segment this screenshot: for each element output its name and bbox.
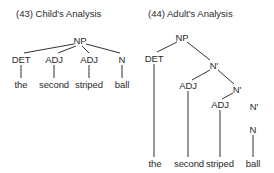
tree-44-node-adj1: ADJ	[179, 80, 197, 91]
tree-43-word-the: the	[15, 79, 28, 90]
edge-np-nbar1	[187, 42, 210, 60]
tree-44-node-np: NP	[176, 32, 189, 43]
tree-43-node-n: N	[119, 54, 126, 65]
tree-44-title: (44) Adult's Analysis	[148, 8, 233, 19]
tree-43-word-ball: ball	[115, 79, 129, 90]
tree-44-node-n: N	[250, 124, 257, 135]
tree-44-node-det: DET	[145, 53, 164, 64]
edge-np-det-44	[157, 42, 177, 52]
edge-np-adj1	[58, 46, 76, 53]
edge-np-det	[24, 44, 74, 53]
tree-43-word-second: second	[39, 79, 69, 90]
edge-np-n	[86, 44, 120, 53]
tree-43-node-det: DET	[12, 54, 31, 65]
tree-43-word-striped: striped	[75, 79, 103, 90]
tree-44-word-second: second	[174, 158, 204, 169]
tree-43-node-np: NP	[74, 35, 87, 46]
tree-44-word-ball: ball	[246, 158, 260, 169]
edge-nbar1-adj1	[192, 70, 210, 80]
tree-43-title: (43) Child's Analysis	[16, 8, 101, 19]
tree-44-word-the: the	[149, 158, 162, 169]
tree-44-node-nbar1: N'	[210, 60, 218, 71]
tree-44-node-nbar2: N'	[233, 84, 241, 95]
tree-44-node-nbar3: N'	[250, 101, 258, 112]
tree-43-node-adj2: ADJ	[80, 54, 98, 65]
edge-np-adj2	[82, 46, 89, 53]
tree-44-node-adj2: ADJ	[211, 99, 229, 110]
tree-43-node-adj1: ADJ	[45, 54, 63, 65]
tree-44-word-striped: striped	[206, 158, 234, 169]
edge-nbar1-nbar2	[218, 70, 234, 84]
